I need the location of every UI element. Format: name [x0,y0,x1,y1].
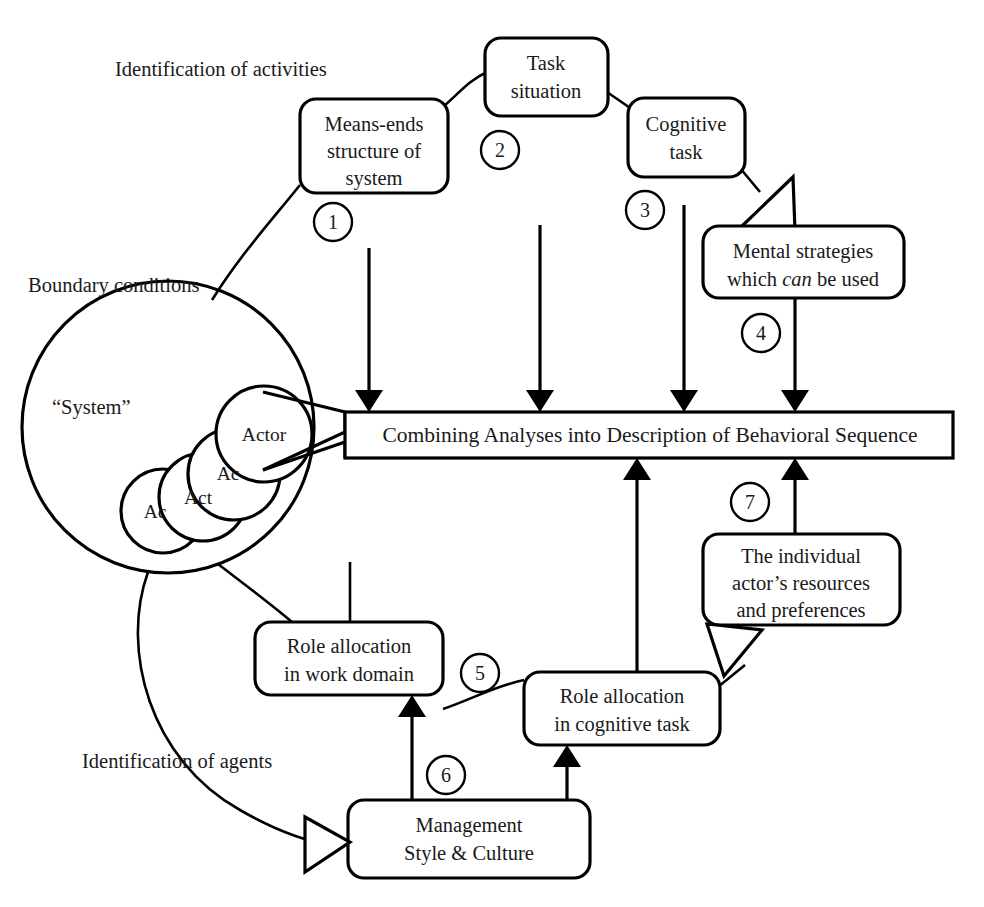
number-label-4: 4 [756,322,766,344]
node-cognitive-task-box[interactable] [628,98,745,177]
arrow6-head [398,695,426,717]
actor-label-2: Ac [217,463,240,484]
number-label-2: 2 [495,139,505,161]
label-system: “System” [52,396,131,419]
arrow1-head [355,390,383,412]
actor-label-1: Actor [242,424,287,445]
node-role-work-domain-line1: Role allocation [287,635,412,657]
hollow-arrow-to-mental-strategies [741,177,795,231]
diagram-canvas: Ac Act Ac Actor Combining Analyses into … [0,0,984,907]
link-system-to-role-work-domain [218,564,292,622]
arrow-cognitive-role-head [623,458,651,480]
label-boundary-conditions: Boundary conditions [28,274,199,297]
link-system-to-means-ends [212,185,300,300]
node-individual-actor-line2: actor’s resources [732,572,870,594]
node-task-situation-line1: Task [527,52,566,74]
node-role-cognitive-task-line2: in cognitive task [554,713,690,736]
node-management-style-box[interactable] [348,800,590,878]
number-label-3: 3 [640,199,650,221]
mental-strategies-emphasis: can [782,268,812,290]
arrow-management-to-cogrole-head [553,745,581,767]
number-label-6: 6 [441,764,451,786]
node-role-cognitive-task-line1: Role allocation [560,685,685,707]
arrow2-head [526,390,554,412]
node-task-situation-line2: situation [511,80,582,102]
number-label-7: 7 [745,491,755,513]
node-means-ends-line3: system [346,167,403,190]
hollow-arrow-to-management [305,817,350,872]
label-identification-of-agents: Identification of agents [82,750,272,773]
node-individual-actor-line3: and preferences [736,599,865,622]
node-management-style-line1: Management [415,814,522,837]
arrow4-head [781,390,809,412]
node-management-style-line2: Style & Culture [404,842,534,865]
number-label-1: 1 [328,211,338,233]
cognitive-work-analysis-diagram: Ac Act Ac Actor Combining Analyses into … [0,0,984,907]
arrow3-head [670,390,698,412]
link-means-ends-to-task-situation [442,72,487,108]
node-means-ends-line2: structure of [327,140,421,162]
node-means-ends-line1: Means-ends [324,113,423,135]
node-cognitive-task-line2: task [669,141,703,163]
arrow-individual-actor-head [781,458,809,480]
node-mental-strategies-line1: Mental strategies [733,240,874,263]
central-bar-label: Combining Analyses into Description of B… [382,423,917,447]
hollow-arrow-to-individual-actor [707,624,762,676]
node-cognitive-task-line1: Cognitive [646,113,727,136]
node-role-work-domain-line2: in work domain [284,663,414,685]
number-label-5: 5 [475,662,485,684]
link-system-to-management [138,572,330,845]
node-individual-actor-line1: The individual [741,545,861,567]
label-identification-of-activities: Identification of activities [115,58,327,80]
actor-label-4: Ac [144,501,167,522]
actor-label-3: Act [184,487,213,508]
node-mental-strategies-line2: which can be used [727,268,879,290]
node-task-situation-box[interactable] [485,38,608,116]
